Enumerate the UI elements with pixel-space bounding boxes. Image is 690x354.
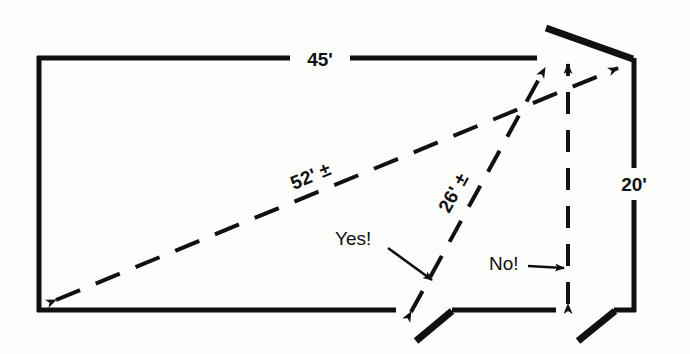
floor-plan-svg: 45' 20' 52' ± 26' ± Yes! No!	[0, 0, 690, 354]
measurement-lines-group	[56, 64, 618, 312]
no-callout-label: No!	[489, 253, 519, 274]
short-diagonal-dimension-label: 26' ±	[434, 170, 472, 216]
door-leaf-top-right	[546, 28, 633, 59]
diagram-canvas: 45' 20' 52' ± 26' ± Yes! No!	[0, 0, 690, 354]
door-leaf-bottom-right	[578, 311, 615, 341]
yes-pointer-arrow	[388, 248, 432, 280]
callout-arrow-group	[388, 248, 564, 280]
no-pointer-arrow	[528, 266, 564, 268]
door-leaf-bottom-left	[416, 311, 452, 341]
long-diagonal-dimension-label: 52' ±	[287, 158, 333, 193]
label-group: 45' 20' 52' ± 26' ± Yes! No!	[287, 49, 646, 274]
right-wall-dimension-label: 20'	[621, 174, 647, 195]
top-wall-dimension-label: 45'	[307, 49, 333, 70]
yes-callout-label: Yes!	[335, 228, 371, 249]
short-diagonal-dashed-line	[411, 68, 545, 312]
